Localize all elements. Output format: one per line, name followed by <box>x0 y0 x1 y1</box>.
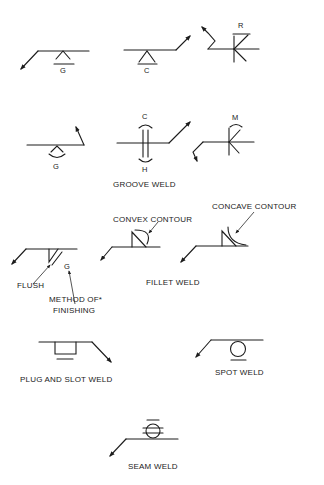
convex-contour-mark <box>49 154 65 158</box>
symbol-groove-machined <box>193 125 254 162</box>
groove-v-mark <box>51 146 63 152</box>
symbol-groove-convex-ground <box>27 127 84 158</box>
symbol-diagonal-upper <box>234 35 248 49</box>
bottom-contour-mark <box>139 159 152 162</box>
caption-spot-weld: SPOT WELD <box>215 368 264 378</box>
symbol-groove-double <box>117 122 190 162</box>
finish-letter-c: C <box>144 67 150 75</box>
label-convex-contour: CONVEX CONTOUR <box>113 215 192 225</box>
arrow-leader <box>12 249 26 264</box>
arrow-leader <box>110 439 126 456</box>
finish-letter-m: M <box>232 114 238 122</box>
symbol-seam <box>110 420 178 456</box>
concave-contour-mark <box>228 227 246 245</box>
arrow-leader <box>101 247 112 260</box>
symbol-groove-rolled <box>202 27 259 62</box>
symbol-diagonal-upper <box>229 130 240 142</box>
finish-letter-h: H <box>142 166 148 174</box>
caption-fillet-weld: FILLET WELD <box>146 278 200 288</box>
contour-mark <box>230 125 242 128</box>
label-flush: FLUSH <box>17 281 44 291</box>
finish-letter-r: R <box>238 22 244 30</box>
symbol-plug-slot <box>39 342 111 362</box>
top-contour-mark <box>139 125 152 128</box>
symbol-groove-chipped <box>124 36 190 64</box>
arrow-leader <box>21 51 38 69</box>
groove-v-mark <box>56 51 70 59</box>
groove-v-mark <box>139 51 155 62</box>
finish-letter-g: G <box>60 67 66 75</box>
arrow-leader <box>76 127 84 145</box>
symbol-spot <box>196 340 263 360</box>
finish-letter-g: G <box>53 163 59 171</box>
symbol-fillet-convex <box>101 222 160 260</box>
arrow-leader <box>176 36 190 50</box>
arrow-leader <box>92 342 111 362</box>
label-concave-contour: CONCAVE CONTOUR <box>212 202 297 212</box>
arrow-leader <box>202 27 215 49</box>
symbol-groove-ground <box>21 51 89 69</box>
symbol-diagonal-lower <box>229 142 239 153</box>
spot-circle <box>231 342 246 357</box>
seam-circle <box>146 424 160 438</box>
caption-seam-weld: SEAM WELD <box>128 462 178 472</box>
plug-rectangle <box>55 342 76 354</box>
arrow-leader <box>193 142 203 161</box>
welding-symbols-diagram <box>0 0 324 485</box>
finish-letter-c: C <box>142 113 148 121</box>
fillet-triangle <box>132 232 146 247</box>
symbol-diagonal-lower <box>234 49 246 61</box>
caption-groove-weld: GROOVE WELD <box>113 180 176 190</box>
concave-pointer-line <box>236 212 254 233</box>
arrow-leader <box>169 122 190 143</box>
finish-letter-g: G <box>64 263 70 271</box>
arrow-leader <box>181 246 196 262</box>
label-method-of-finishing-line2: FINISHING <box>53 306 95 316</box>
arrow-leader <box>196 340 211 357</box>
caption-plug-and-slot-weld: PLUG AND SLOT WELD <box>20 375 112 385</box>
flush-contour-line <box>52 252 62 265</box>
label-method-of-finishing-line1: METHOD OF* <box>49 295 102 305</box>
fillet-triangle <box>49 249 58 262</box>
